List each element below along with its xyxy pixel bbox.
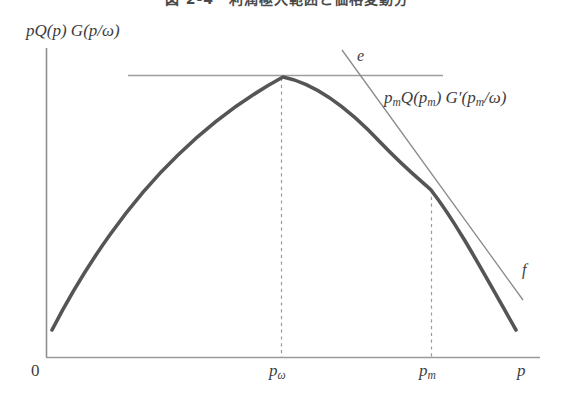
y-axis-label: pQ(p) G(p/ω) bbox=[26, 22, 120, 39]
tangent-label-f: f bbox=[522, 262, 526, 278]
x-tick-p-omega-sub: ω bbox=[278, 369, 286, 382]
profit-curve bbox=[52, 77, 516, 330]
x-axis-label: p bbox=[517, 362, 526, 379]
x-tick-p-m-sub: m bbox=[428, 369, 436, 382]
x-tick-label-p-m: pm bbox=[419, 362, 436, 381]
plot-canvas bbox=[0, 0, 574, 402]
slope-expression-text: pmQ(pm) G′(pm/ω) bbox=[384, 88, 507, 107]
x-tick-p-m-base: p bbox=[419, 361, 428, 380]
figure-root: 図 2-4 利潤極大範囲と価格変動分 pQ(p) G(p/ω) e f pmQ(… bbox=[0, 0, 574, 402]
slope-expression-label: pmQ(pm) G′(pm/ω) bbox=[384, 89, 507, 108]
tangent-label-e: e bbox=[357, 48, 364, 64]
x-tick-label-origin: 0 bbox=[31, 362, 40, 379]
x-tick-label-p-omega: pω bbox=[269, 362, 286, 381]
x-tick-p-omega-base: p bbox=[269, 361, 278, 380]
